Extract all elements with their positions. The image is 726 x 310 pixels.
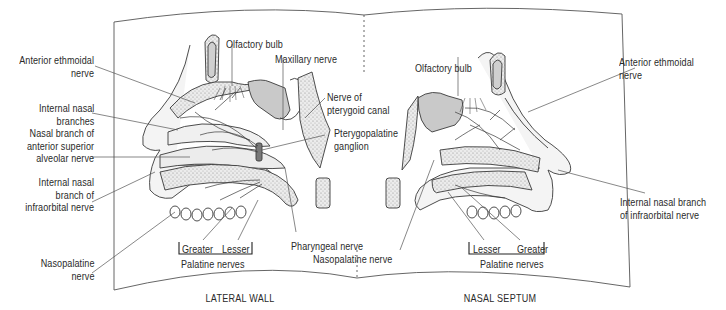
label-internal-nasal-branch-infraorbital-right: Internal nasal branch of infraorbital ne… bbox=[620, 196, 706, 221]
label-greater-left: Greater bbox=[182, 243, 213, 256]
label-nasopalatine-nerve-right: Nasopalatine nerve bbox=[313, 253, 392, 266]
label-nerve-of-pterygoid-canal: Nerve of pterygoid canal bbox=[327, 91, 390, 116]
label-olfactory-bulb-left: Olfactory bulb bbox=[226, 38, 283, 51]
caption-nasal-septum: NASAL SEPTUM bbox=[448, 292, 551, 305]
label-pharyngeal-nerve: Pharyngeal nerve bbox=[291, 240, 363, 253]
label-maxillary-nerve: Maxillary nerve bbox=[275, 53, 337, 66]
label-palatine-nerves-left: Palatine nerves bbox=[181, 258, 245, 271]
label-palatine-nerves-right: Palatine nerves bbox=[480, 258, 544, 271]
label-internal-nasal-branch-infraorbital-left: Internal nasal branch of infraorbital ne… bbox=[25, 176, 94, 214]
label-nasal-branch-asa-nerve: Nasal branch of anterior superior alveol… bbox=[27, 127, 94, 165]
label-nasopalatine-nerve-left: Nasopalatine nerve bbox=[40, 257, 94, 282]
label-lesser-left: Lesser bbox=[222, 243, 250, 256]
label-anterior-ethmoidal-nerve-left: Anterior ethmoidal nerve bbox=[19, 54, 94, 79]
label-pterygopalatine-ganglion: Pterygopalatine ganglion bbox=[334, 127, 398, 152]
nasal-nerves-diagram: Anterior ethmoidal nerve Internal nasal … bbox=[0, 0, 726, 310]
label-olfactory-bulb-right: Olfactory bulb bbox=[415, 62, 472, 75]
label-greater-right: Greater bbox=[517, 243, 548, 256]
nasal-septum-anatomy bbox=[386, 52, 571, 219]
caption-lateral-wall: LATERAL WALL bbox=[188, 292, 291, 305]
label-anterior-ethmoidal-nerve-right: Anterior ethmoidal nerve bbox=[619, 56, 694, 81]
label-lesser-right: Lesser bbox=[473, 243, 501, 256]
label-internal-nasal-branches: Internal nasal branches bbox=[39, 102, 94, 127]
